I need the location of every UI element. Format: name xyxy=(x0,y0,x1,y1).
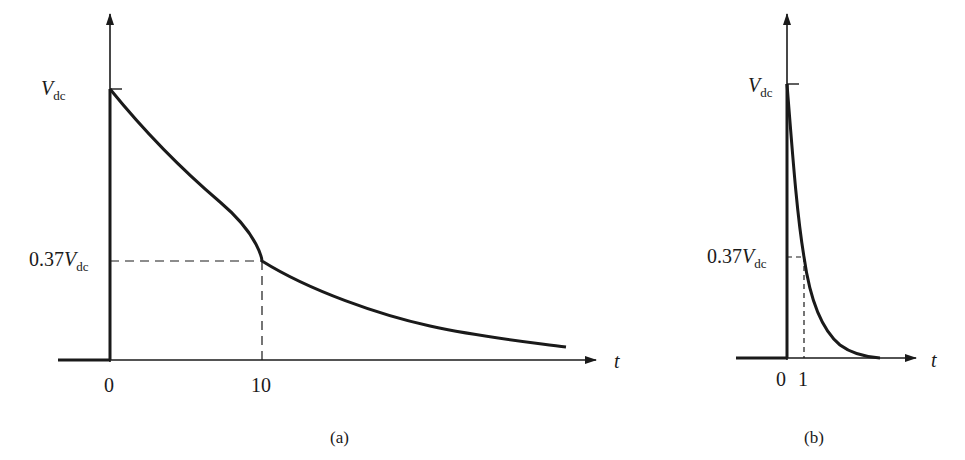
x-tick-0-a: 0 xyxy=(104,375,114,395)
y-label-037vdc-b: 0.37Vdc xyxy=(707,246,767,266)
coef-037-b: 0.37 xyxy=(707,245,742,267)
x-axis-label-t-a: t xyxy=(614,351,620,371)
panel-a xyxy=(58,14,596,362)
vdc-subscript-b: dc xyxy=(760,85,772,100)
v-symbol-mid-b: V xyxy=(742,245,754,267)
decay-curve-a xyxy=(110,89,566,347)
vdc-subscript-a: dc xyxy=(53,88,65,103)
dc-subscript-mid-b: dc xyxy=(754,256,766,271)
y-label-037vdc-a: 0.37Vdc xyxy=(29,249,89,269)
x-tick-1-b: 1 xyxy=(798,369,808,389)
y-label-vdc-b: Vdc xyxy=(748,75,773,95)
vdc-symbol-b: V xyxy=(748,74,760,96)
caption-a: (a) xyxy=(330,428,349,448)
caption-b: (b) xyxy=(804,428,824,448)
y-label-vdc-a: Vdc xyxy=(41,78,66,98)
x-axis-label-t-b: t xyxy=(931,350,937,370)
coef-037-a: 0.37 xyxy=(29,248,64,270)
decay-curve-b xyxy=(787,84,880,358)
v-symbol-mid-a: V xyxy=(64,248,76,270)
vdc-symbol-a: V xyxy=(41,77,53,99)
dc-subscript-mid-a: dc xyxy=(76,259,88,274)
x-tick-0-b: 0 xyxy=(776,369,786,389)
panel-b xyxy=(736,14,916,360)
chart-canvas xyxy=(0,0,965,460)
x-tick-10-a: 10 xyxy=(251,375,271,395)
